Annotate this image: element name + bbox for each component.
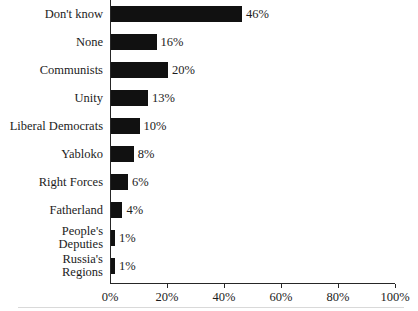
chart-row: Right Forces6% [0, 168, 418, 196]
chart-row: Yabloko8% [0, 140, 418, 168]
bar-value-label: 10% [144, 120, 167, 133]
x-axis-line [110, 283, 395, 284]
chart-row: Fatherland4% [0, 196, 418, 224]
category-label: Russia's Regions [0, 253, 103, 279]
category-label: Don't know [0, 8, 103, 21]
y-axis-line [110, 0, 111, 284]
bar-value-label: 16% [161, 36, 184, 49]
bar [111, 230, 115, 246]
bar-group: 1% [111, 230, 136, 246]
category-label: Right Forces [0, 176, 103, 189]
bar-value-label: 1% [119, 260, 136, 273]
x-tick-mark [224, 284, 225, 288]
bar [111, 202, 122, 218]
category-label: Yabloko [0, 148, 103, 161]
bar [111, 118, 140, 134]
x-tick-label: 20% [156, 290, 179, 304]
chart-row: None16% [0, 28, 418, 56]
bar [111, 174, 128, 190]
x-tick-label: 80% [327, 290, 350, 304]
bar-chart: Don't know46%None16%Communists20%Unity13… [0, 0, 418, 311]
bottom-divider [18, 307, 404, 308]
bar-value-label: 13% [152, 92, 175, 105]
bar-group: 10% [111, 118, 166, 134]
bar [111, 6, 242, 22]
bar [111, 258, 115, 274]
x-tick-mark [167, 284, 168, 288]
bar-group: 16% [111, 34, 184, 50]
bar-value-label: 1% [119, 232, 136, 245]
category-label: Unity [0, 92, 103, 105]
bar-value-label: 46% [246, 8, 269, 21]
bar-group: 8% [111, 146, 154, 162]
bar-value-label: 20% [172, 64, 195, 77]
bar-group: 4% [111, 202, 143, 218]
chart-row: Russia's Regions1% [0, 252, 418, 280]
bar-group: 13% [111, 90, 175, 106]
bar-group: 46% [111, 6, 269, 22]
bar [111, 34, 157, 50]
bar [111, 90, 148, 106]
x-tick-label: 0% [102, 290, 119, 304]
bar-value-label: 4% [126, 204, 143, 217]
chart-row: Don't know46% [0, 0, 418, 28]
chart-plot-area: Don't know46%None16%Communists20%Unity13… [0, 0, 418, 283]
chart-row: Unity13% [0, 84, 418, 112]
category-label: Liberal Democrats [0, 120, 103, 133]
category-label: Fatherland [0, 204, 103, 217]
x-tick-label: 60% [270, 290, 293, 304]
bar-group: 20% [111, 62, 195, 78]
x-tick-label: 40% [213, 290, 236, 304]
x-tick-mark [338, 284, 339, 288]
bar-value-label: 8% [138, 148, 155, 161]
category-label: Communists [0, 64, 103, 77]
category-label: None [0, 36, 103, 49]
chart-row: People's Deputies1% [0, 224, 418, 252]
bar [111, 146, 134, 162]
chart-row: Liberal Democrats10% [0, 112, 418, 140]
x-tick-label: 100% [380, 290, 409, 304]
chart-row: Communists20% [0, 56, 418, 84]
x-tick-mark [281, 284, 282, 288]
bar [111, 62, 168, 78]
bar-group: 6% [111, 174, 149, 190]
bar-group: 1% [111, 258, 136, 274]
category-label: People's Deputies [0, 225, 103, 251]
x-tick-mark [395, 284, 396, 288]
bar-value-label: 6% [132, 176, 149, 189]
